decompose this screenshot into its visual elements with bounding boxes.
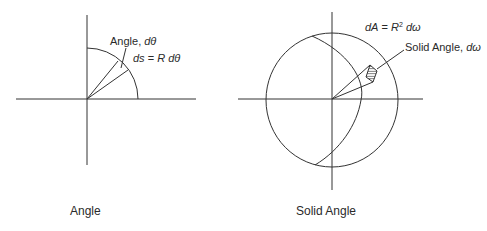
angle-label: Angle, dθ bbox=[110, 35, 156, 47]
solid-ray-1 bbox=[332, 65, 370, 99]
solid-angle-label: Solid Angle, dω bbox=[405, 41, 481, 53]
angle-diagram bbox=[16, 15, 196, 165]
area-label: dA = R2 dω bbox=[365, 21, 421, 33]
arc-length-label: ds = R dθ bbox=[133, 52, 180, 64]
solid-leader-line bbox=[377, 50, 404, 69]
solid-angle-diagram bbox=[238, 12, 423, 190]
angle-quarter-arc bbox=[87, 48, 138, 99]
caption-solid-angle: Solid Angle bbox=[296, 204, 356, 218]
caption-angle: Angle bbox=[70, 204, 101, 218]
solid-ray-2 bbox=[332, 82, 373, 99]
sphere-meridian bbox=[312, 36, 362, 165]
diagram-canvas: Angle, dθ ds = R dθ dA = R2 dω Solid Ang… bbox=[0, 0, 487, 231]
